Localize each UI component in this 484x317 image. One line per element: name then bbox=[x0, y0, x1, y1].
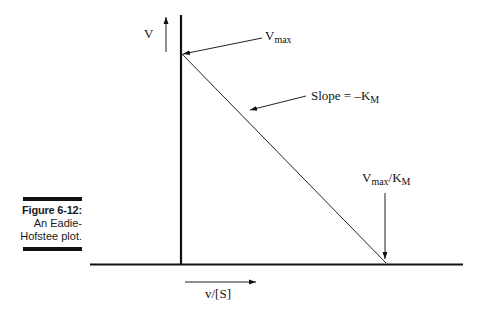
figure-caption: Figure 6-12: An Eadie- Hofstee plot. bbox=[14, 197, 82, 251]
vmax-pointer-arrow-icon bbox=[183, 38, 262, 54]
intercept-label: Vmax/KM bbox=[362, 170, 411, 187]
slope-label: Slope = –KM bbox=[311, 88, 379, 105]
caption-line-1: An Eadie- bbox=[14, 217, 82, 230]
caption-bar-bottom bbox=[23, 247, 82, 251]
intercept-sub2: M bbox=[402, 176, 411, 187]
vmax-sub: max bbox=[274, 34, 291, 45]
plot-canvas bbox=[0, 0, 484, 317]
figure-number: Figure 6-12: bbox=[14, 204, 82, 217]
intercept-sub1: max bbox=[371, 176, 388, 187]
eadie-hofstee-line bbox=[182, 54, 386, 263]
slope-main: Slope = –K bbox=[311, 88, 370, 103]
intercept-sep: /K bbox=[389, 170, 402, 185]
caption-line-2: Hofstee plot. bbox=[14, 230, 82, 243]
y-axis-label: V bbox=[144, 26, 153, 42]
slope-pointer-arrow-icon bbox=[250, 96, 306, 110]
eadie-hofstee-figure: V Vmax Slope = –KM Vmax/KM v/[S] Figure … bbox=[0, 0, 484, 317]
slope-sub: M bbox=[370, 94, 379, 105]
vmax-label: Vmax bbox=[265, 28, 292, 45]
intercept-main: V bbox=[362, 170, 371, 185]
vmax-main: V bbox=[265, 28, 274, 43]
x-axis-label: v/[S] bbox=[205, 286, 231, 302]
caption-bar-top bbox=[23, 197, 82, 201]
